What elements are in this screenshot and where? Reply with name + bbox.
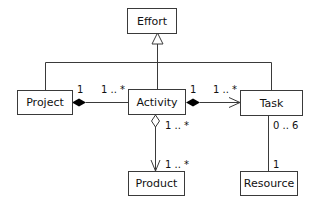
multiplicity-label: 1 .. * [101, 85, 125, 95]
multiplicity-label: 1 .. * [165, 160, 189, 170]
class-task[interactable]: Task [240, 90, 303, 116]
class-effort[interactable]: Effort [127, 8, 177, 34]
uml-diagram: Effort Project Activity Task Product Res… [0, 0, 313, 209]
composition-diamond-icon [186, 99, 200, 107]
multiplicity-label: 1 .. * [165, 121, 189, 131]
class-product[interactable]: Product [128, 171, 185, 196]
aggregation-diamond-icon [152, 115, 160, 127]
multiplicity-label: 1 [190, 85, 196, 95]
generalization-arrowhead-icon [152, 33, 163, 44]
multiplicity-label: 1 .. * [213, 85, 237, 95]
composition-diamond-icon [72, 99, 86, 107]
multiplicity-label: 0 .. 6 [273, 121, 298, 131]
class-resource[interactable]: Resource [240, 171, 298, 196]
class-project[interactable]: Project [17, 90, 73, 115]
multiplicity-label: 1 [273, 160, 279, 170]
multiplicity-label: 1 [77, 85, 83, 95]
class-activity[interactable]: Activity [128, 89, 186, 115]
